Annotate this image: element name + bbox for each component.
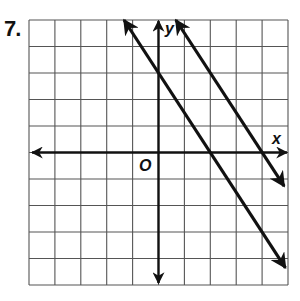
x-axis-label: x — [271, 130, 282, 147]
axes: x y O — [32, 20, 287, 283]
plotted-lines — [124, 20, 285, 268]
line-2 — [176, 20, 284, 186]
y-axis-label: y — [164, 20, 175, 37]
line-1 — [124, 20, 285, 268]
coordinate-graph: x y O — [0, 0, 300, 301]
origin-label: O — [139, 157, 152, 174]
